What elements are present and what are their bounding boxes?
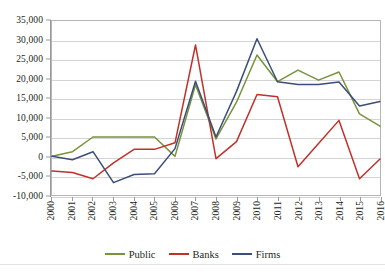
y-axis-tick-label: 0: [38, 152, 43, 162]
x-axis-tick-label: 2008: [211, 201, 221, 220]
series-layer: [52, 21, 380, 195]
legend-label: Firms: [256, 249, 281, 260]
bottom-divider: [0, 264, 385, 265]
legend-swatch-icon: [169, 253, 189, 255]
chart-container: 35,00030,00025,00020,00015,00010,0005,00…: [0, 0, 385, 278]
y-axis: 35,00030,00025,00020,00015,00010,0005,00…: [0, 20, 51, 196]
plot-area: [51, 20, 381, 196]
y-axis-tick-label: 15,000: [16, 93, 43, 103]
x-axis-tick-label: 2007: [190, 201, 200, 220]
x-axis-tick-label: 2011: [273, 201, 283, 220]
x-axis-tick-label: 2002: [87, 201, 97, 220]
chart-legend: PublicBanksFirms: [0, 246, 385, 262]
x-axis-tick-label: 2006: [170, 201, 180, 220]
y-axis-tick-label: 30,000: [16, 35, 43, 45]
y-axis-tick-label: 5,000: [21, 132, 43, 142]
y-axis-tick-label: -10,000: [13, 191, 43, 201]
y-axis-tick-label: 35,000: [16, 15, 43, 25]
x-axis-tick-label: 2005: [149, 201, 159, 220]
x-axis-tick-label: 2014: [335, 201, 345, 220]
x-axis-tick-label: 2015: [355, 201, 365, 220]
y-axis-tick-label: 10,000: [16, 113, 43, 123]
series-line-firms: [52, 39, 380, 183]
y-axis-tick-label: -5,000: [18, 171, 43, 181]
x-axis-tick-label: 2012: [294, 201, 304, 220]
legend-swatch-icon: [105, 253, 125, 255]
y-axis-tick-label: 20,000: [16, 74, 43, 84]
legend-swatch-icon: [232, 253, 252, 255]
series-line-banks: [52, 45, 380, 179]
y-axis-tick-label: 25,000: [16, 54, 43, 64]
series-line-public: [52, 55, 380, 156]
legend-item-banks[interactable]: Banks: [169, 249, 219, 260]
x-axis-tick-label: 2013: [314, 201, 324, 220]
x-axis-tick-label: 2003: [108, 201, 118, 220]
legend-label: Public: [129, 249, 156, 260]
x-axis: 2000200120022003200420052006200720082009…: [51, 197, 381, 243]
clipped-caption-strip: [0, 0, 385, 8]
x-axis-tick-label: 2010: [252, 201, 262, 220]
legend-label: Banks: [193, 249, 219, 260]
series-svg: [52, 21, 380, 195]
x-axis-tick-label: 2009: [232, 201, 242, 220]
x-axis-tick-label: 2000: [46, 201, 56, 220]
x-axis-tick-label: 2016: [376, 201, 385, 220]
x-axis-tick-label: 2004: [129, 201, 139, 220]
legend-item-public[interactable]: Public: [105, 249, 156, 260]
x-axis-tick-label: 2001: [67, 201, 77, 220]
legend-item-firms[interactable]: Firms: [232, 249, 281, 260]
